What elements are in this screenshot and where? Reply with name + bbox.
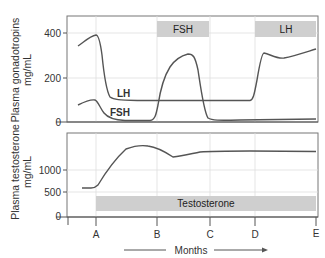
top-tick-200: 200 bbox=[44, 73, 61, 84]
top-ylabel-line1: Plasma gonadotropins bbox=[9, 18, 21, 122]
top-ylabel-line2: mg/mL bbox=[21, 54, 33, 86]
x-label-c: C bbox=[206, 229, 213, 240]
x-label-a: A bbox=[93, 229, 100, 240]
chart-canvas: FSH LH LH FSH 400 200 0 Plasma gonadotro… bbox=[0, 0, 325, 258]
lh-curve-label: LH bbox=[117, 88, 130, 99]
fsh-bar-label: FSH bbox=[173, 24, 193, 35]
x-label-e: E bbox=[313, 228, 320, 239]
arrow-right-icon bbox=[262, 248, 268, 253]
x-label-b: B bbox=[154, 229, 161, 240]
top-tick-0: 0 bbox=[55, 117, 61, 128]
fsh-curve-label: FSH bbox=[110, 107, 130, 118]
lh-bar-label: LH bbox=[280, 24, 293, 35]
testosterone-panel: Testosterone 1000 500 0 Plasma testoster… bbox=[9, 124, 320, 256]
bottom-tick-1000: 1000 bbox=[39, 165, 62, 176]
bottom-ylabel-line1: Plasma testosterone bbox=[9, 124, 21, 220]
bottom-tick-500: 500 bbox=[44, 187, 61, 198]
x-label-d: D bbox=[251, 229, 258, 240]
testosterone-bar-label: Testosterone bbox=[177, 198, 235, 209]
bottom-tick-0: 0 bbox=[55, 211, 61, 222]
x-axis-title: Months bbox=[175, 245, 208, 256]
gonadotropins-panel: FSH LH LH FSH 400 200 0 Plasma gonadotro… bbox=[9, 16, 318, 128]
bottom-ylabel-line2: mg/mL bbox=[21, 156, 33, 188]
hormone-chart-figure: FSH LH LH FSH 400 200 0 Plasma gonadotro… bbox=[0, 0, 325, 258]
top-tick-400: 400 bbox=[44, 28, 61, 39]
